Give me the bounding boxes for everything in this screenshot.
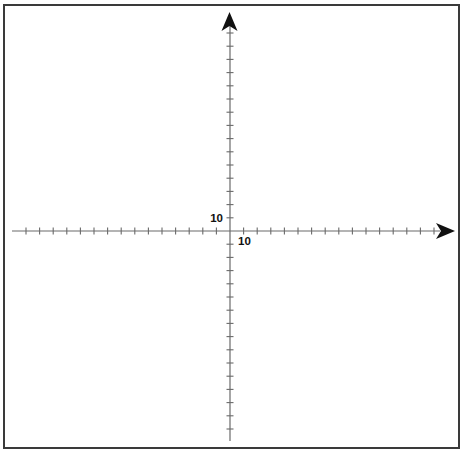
y-axis xyxy=(222,12,238,441)
x-axis-scale-label: 10 xyxy=(238,235,251,247)
y-axis-scale-label: 10 xyxy=(210,212,223,224)
x-axis xyxy=(12,223,455,239)
coordinate-plane: 10 10 xyxy=(0,0,464,453)
